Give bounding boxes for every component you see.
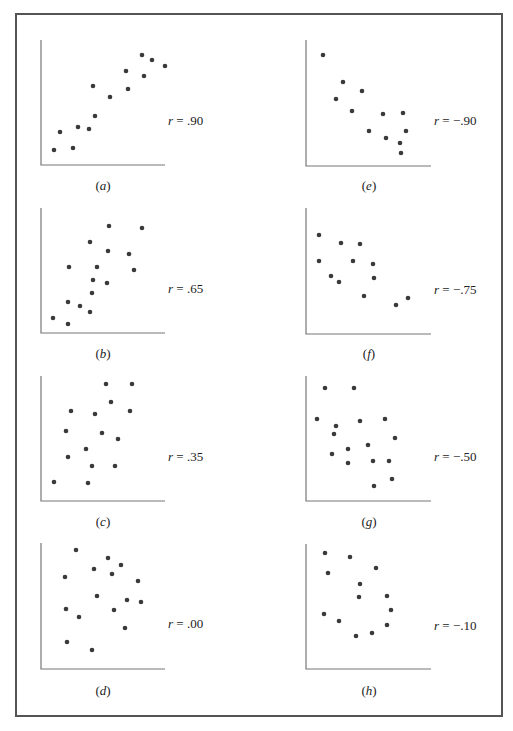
data-point <box>69 409 74 414</box>
data-point <box>87 127 92 132</box>
data-point <box>339 241 344 246</box>
data-point <box>116 437 121 442</box>
panel-caption: (c) <box>96 514 110 529</box>
data-point <box>330 452 335 457</box>
data-point <box>119 563 124 568</box>
data-point <box>88 310 93 315</box>
data-point <box>334 97 339 102</box>
panel-caption: (a) <box>95 178 110 193</box>
correlation-label: r = .35 <box>168 449 203 464</box>
data-point <box>66 455 71 460</box>
data-point <box>372 484 377 489</box>
data-point <box>93 114 98 119</box>
correlation-label: r = .00 <box>168 616 203 631</box>
panel-caption: (g) <box>361 514 376 529</box>
data-point <box>110 572 115 577</box>
data-point <box>66 322 71 327</box>
data-point <box>334 424 339 429</box>
data-point <box>381 112 386 117</box>
data-point <box>86 481 91 486</box>
data-point <box>387 459 392 464</box>
data-point <box>390 477 395 482</box>
data-point <box>78 304 83 309</box>
data-point <box>130 382 135 387</box>
data-point <box>321 53 326 58</box>
data-point <box>63 575 68 580</box>
data-point <box>317 233 322 238</box>
data-point <box>140 53 145 58</box>
data-point <box>398 141 403 146</box>
data-point <box>383 417 388 422</box>
data-point <box>64 429 69 434</box>
data-point <box>90 464 95 469</box>
data-point <box>52 148 57 153</box>
data-point <box>107 224 112 229</box>
data-point <box>384 136 389 141</box>
data-point <box>371 262 376 267</box>
data-point <box>88 240 93 245</box>
axes <box>306 376 431 501</box>
data-point <box>106 556 111 561</box>
data-point <box>52 480 57 485</box>
data-point <box>92 567 97 572</box>
correlation-label: r = −.10 <box>434 618 476 633</box>
data-point <box>65 640 70 645</box>
data-point <box>140 226 145 231</box>
data-point <box>399 151 404 156</box>
correlation-label: r = −.75 <box>434 282 476 297</box>
data-point <box>163 64 168 69</box>
data-point <box>389 608 394 613</box>
data-point <box>74 548 79 553</box>
data-point <box>93 412 98 417</box>
scatter-panel-f: r = −.75(f) <box>306 208 476 361</box>
data-point <box>358 242 363 247</box>
panel-caption: (e) <box>362 178 376 193</box>
data-point <box>51 316 56 321</box>
data-point <box>124 69 129 74</box>
data-point <box>366 443 371 448</box>
panel-caption: (f) <box>363 346 375 361</box>
data-point <box>109 400 114 405</box>
data-point <box>105 281 110 286</box>
data-point <box>385 594 390 599</box>
correlation-label: r = −.90 <box>434 113 476 128</box>
correlation-label: r = .90 <box>168 113 203 128</box>
data-point <box>352 386 357 391</box>
data-point <box>142 74 147 79</box>
data-point <box>91 84 96 89</box>
data-point <box>76 125 81 130</box>
axes <box>41 208 165 333</box>
data-point <box>337 619 342 624</box>
data-point <box>84 447 89 452</box>
data-point <box>354 634 359 639</box>
data-point <box>393 436 398 441</box>
data-point <box>332 432 337 437</box>
panel-caption: (h) <box>361 683 376 698</box>
scatter-panel-d: r = .00(d) <box>41 543 203 698</box>
data-point <box>322 612 327 617</box>
data-point <box>374 566 379 571</box>
scatter-panel-e: r = −.90(e) <box>306 40 476 193</box>
data-point <box>139 600 144 605</box>
data-point <box>90 291 95 296</box>
scatter-panel-c: r = .35(c) <box>41 376 203 529</box>
data-point <box>104 382 109 387</box>
axes <box>306 208 431 334</box>
data-point <box>132 268 137 273</box>
data-point <box>95 594 100 599</box>
data-point <box>113 464 118 469</box>
correlation-label: r = .65 <box>168 281 203 296</box>
panel-caption: (d) <box>95 683 110 698</box>
data-point <box>370 631 375 636</box>
data-point <box>90 648 95 653</box>
data-point <box>401 111 406 116</box>
data-point <box>360 89 365 94</box>
data-point <box>95 265 100 270</box>
data-point <box>66 300 71 305</box>
data-point <box>108 95 113 100</box>
scatter-panel-h: r = −.10(h) <box>306 544 476 698</box>
data-point <box>341 80 346 85</box>
data-point <box>126 87 131 92</box>
correlation-label: r = −.50 <box>434 449 476 464</box>
data-point <box>128 409 133 414</box>
